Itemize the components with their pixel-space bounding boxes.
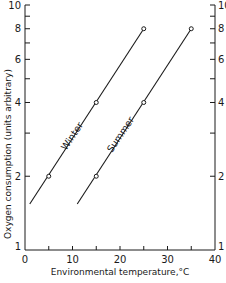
- left-y-tick-label: 10: [8, 0, 21, 11]
- x-tick-label: 10: [66, 254, 79, 265]
- x-axis-title: Environmental temperature,°C: [51, 267, 190, 277]
- data-point-winter: [94, 100, 98, 104]
- right-y-tick-label: 4: [218, 97, 224, 108]
- series-label-winter: Winter: [59, 120, 86, 152]
- x-tick-label: 0: [22, 254, 28, 265]
- data-point-summer: [142, 100, 146, 104]
- series-group: [30, 27, 194, 204]
- left-y-tick-label: 1: [15, 241, 21, 252]
- left-y-tick-label: 8: [15, 23, 21, 34]
- left-y-tick-label: 2: [15, 171, 21, 182]
- left-y-tick-label: 4: [15, 97, 21, 108]
- right-y-tick-label: 6: [218, 54, 224, 65]
- data-point-winter: [47, 174, 51, 178]
- y-axis-title: Oxygen consumption (units arbitrary): [3, 69, 13, 239]
- x-tick-label: 20: [114, 254, 127, 265]
- data-point-winter: [142, 27, 146, 31]
- right-y-tick-label: 2: [218, 171, 224, 182]
- right-y-tick-label: 10: [218, 0, 226, 11]
- data-point-summer: [94, 174, 98, 178]
- x-tick-label: 30: [161, 254, 174, 265]
- series-label-summer: Summer: [105, 114, 137, 154]
- data-point-summer: [189, 27, 193, 31]
- left-y-tick-label: 6: [15, 54, 21, 65]
- right-y-tick-label: 8: [218, 23, 224, 34]
- x-tick-label: 40: [209, 254, 222, 265]
- right-y-tick-label: 1: [218, 241, 224, 252]
- chart: 01020304011224466881010 Winter Summer Ox…: [0, 0, 226, 283]
